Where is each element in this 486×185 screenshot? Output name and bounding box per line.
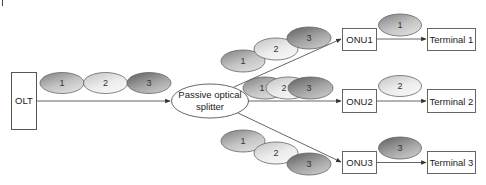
passive-optical-splitter: Passive optical splitter	[172, 84, 249, 118]
svg-text:3: 3	[306, 33, 311, 43]
svg-text:Terminal 1: Terminal 1	[430, 34, 474, 45]
svg-text:1: 1	[397, 20, 402, 30]
olt-label: OLT	[15, 95, 33, 106]
olt-node: OLT	[12, 73, 37, 130]
terminal2-node: Terminal 2	[428, 90, 476, 113]
packet-3: 3	[127, 73, 171, 94]
branch1-packets: 1 2 3	[221, 27, 331, 72]
svg-text:1: 1	[240, 56, 245, 66]
terminal1-node: Terminal 1	[428, 29, 476, 51]
input-packets: 1 2 3	[40, 73, 171, 94]
terminal3-node: Terminal 3	[428, 152, 476, 174]
packet-3: 3	[287, 153, 331, 175]
svg-text:ONU3: ONU3	[346, 157, 372, 168]
splitter-label-line2: splitter	[196, 101, 224, 112]
svg-text:2: 2	[397, 81, 402, 91]
branch3-packets: 1 2 3	[221, 130, 331, 175]
packet-1: 1	[40, 73, 84, 94]
svg-text:2: 2	[273, 44, 278, 54]
onu1-output-packet: 1	[379, 14, 422, 36]
packet-2: 2	[84, 73, 128, 94]
onu3-node: ONU3	[343, 152, 377, 174]
svg-text:2: 2	[273, 148, 278, 158]
svg-text:Terminal 3: Terminal 3	[430, 157, 474, 168]
packet-3: 3	[287, 27, 331, 49]
svg-text:3: 3	[306, 83, 311, 93]
splitter-label-line1: Passive optical	[178, 89, 241, 100]
pon-diagram: OLT 1 2 3 Passive optical splitter 1	[0, 0, 486, 185]
onu1-node: ONU1	[343, 29, 377, 51]
onu2-output-packet: 2	[379, 76, 422, 97]
svg-text:2: 2	[103, 78, 108, 88]
svg-text:1: 1	[240, 136, 245, 146]
svg-text:Terminal 2: Terminal 2	[430, 96, 474, 107]
onu2-node: ONU2	[343, 90, 377, 113]
svg-text:3: 3	[306, 159, 311, 169]
svg-text:1: 1	[59, 78, 64, 88]
svg-text:1: 1	[259, 83, 264, 93]
branch2-packets: 1 2 3	[243, 77, 333, 99]
svg-text:3: 3	[397, 143, 402, 153]
svg-text:3: 3	[146, 78, 151, 88]
packet-3: 3	[288, 77, 333, 99]
svg-text:ONU2: ONU2	[346, 96, 372, 107]
onu3-output-packet: 3	[379, 137, 422, 159]
svg-text:2: 2	[281, 83, 286, 93]
svg-text:ONU1: ONU1	[346, 34, 372, 45]
